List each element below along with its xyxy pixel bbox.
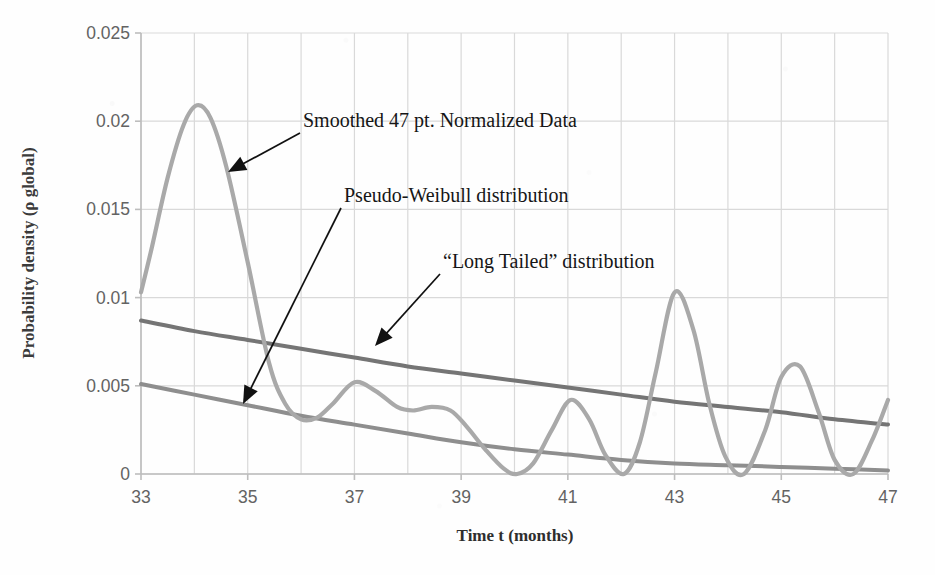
probability-density-chart: 00.0050.010.0150.020.025 333537394143454…	[0, 0, 935, 575]
y-tick-label: 0.015	[86, 199, 130, 219]
y-tick-label: 0.005	[86, 376, 130, 396]
x-tick-label: 37	[345, 487, 364, 507]
y-tick-label: 0.01	[96, 288, 130, 308]
y-tick-label: 0	[120, 464, 130, 484]
chart-figure: 00.0050.010.0150.020.025 333537394143454…	[0, 0, 935, 575]
x-tick-label: 39	[451, 487, 470, 507]
x-tick-label: 41	[558, 487, 577, 507]
x-tick-label: 47	[878, 487, 897, 507]
annotation-label-smoothed-data: Smoothed 47 pt. Normalized Data	[303, 109, 577, 132]
x-tick-label: 45	[772, 487, 791, 507]
x-tick-label: 43	[665, 487, 684, 507]
annotation-label-long-tailed: “Long Tailed” distribution	[443, 250, 655, 273]
x-axis-label: Time t (months)	[457, 526, 574, 545]
y-tick-label: 0.025	[86, 23, 130, 43]
x-tick-label: 35	[238, 487, 257, 507]
annotation-label-pseudo-weibull: Pseudo-Weibull distribution	[344, 184, 569, 206]
y-axis-label: Probability density (ρ global)	[19, 147, 38, 358]
y-tick-label: 0.02	[96, 111, 130, 131]
x-tick-label: 33	[131, 487, 150, 507]
